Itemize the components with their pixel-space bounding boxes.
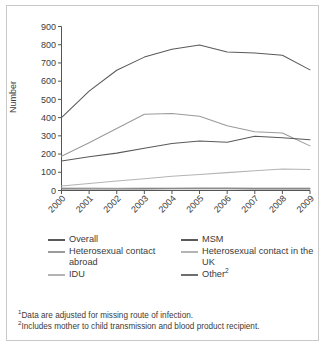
- legend-item-label: Heterosexual contact in the UK: [202, 246, 314, 268]
- x-axis-tick-label: 2001: [74, 193, 95, 214]
- y-axis-tick-label: 700: [41, 58, 56, 68]
- x-axis-tick-label: 2004: [157, 193, 178, 214]
- x-axis-tick-label: 2006: [212, 193, 233, 214]
- line-chart-svg: 0100200300400500600700800900200020012002…: [0, 0, 326, 232]
- series-line: [62, 114, 311, 157]
- y-axis-tick-label: 800: [41, 40, 56, 50]
- x-axis-tick-label: 2009: [295, 193, 316, 214]
- plot-area: Number 010020030040050060070080090020002…: [0, 0, 326, 232]
- y-axis-tick-label: 900: [41, 22, 56, 32]
- legend-item-overall[interactable]: Overall: [48, 234, 181, 245]
- legend-line-swatch: [181, 274, 198, 276]
- legend-item-label: Heterosexual contact abroad: [69, 246, 181, 268]
- series-line: [62, 45, 311, 118]
- legend-line-swatch: [181, 239, 198, 241]
- legend-item-msm[interactable]: MSM: [181, 234, 314, 245]
- legend-line-swatch: [181, 251, 198, 253]
- x-axis-tick-label: 2003: [129, 193, 150, 214]
- legend-line-swatch: [48, 251, 65, 253]
- y-axis-tick-label: 300: [41, 131, 56, 141]
- x-axis-tick-label: 2002: [101, 193, 122, 214]
- legend-item-label: Overall: [69, 234, 98, 245]
- x-axis-tick-label: 2000: [46, 193, 67, 214]
- footnote: 1Data are adjusted for missing route of …: [18, 310, 312, 321]
- footnote: 2Includes mother to child transmission a…: [18, 321, 312, 332]
- footnote-marker: 2: [18, 319, 21, 326]
- legend-item-idu[interactable]: IDU: [48, 269, 181, 280]
- legend-item-label: Other2: [202, 269, 229, 280]
- legend-item-heterosexual-contact-in-the-uk[interactable]: Heterosexual contact in the UK: [181, 246, 314, 268]
- legend-row: IDUOther2: [48, 269, 314, 280]
- x-axis-tick-label: 2008: [267, 193, 288, 214]
- series-line: [62, 136, 311, 161]
- x-axis-tick-label: 2007: [239, 193, 260, 214]
- legend-item-heterosexual-contact-abroad[interactable]: Heterosexual contact abroad: [48, 246, 181, 268]
- legend-footnote-marker: 2: [225, 267, 229, 274]
- legend-item-label: MSM: [202, 234, 223, 245]
- y-axis-tick-label: 500: [41, 95, 56, 105]
- y-axis-tick-label: 400: [41, 113, 56, 123]
- footnote-marker: 1: [18, 308, 21, 315]
- y-axis-tick-label: 100: [41, 167, 56, 177]
- figure-container: Number 010020030040050060070080090020002…: [0, 0, 326, 347]
- legend-item-other[interactable]: Other2: [181, 269, 314, 280]
- y-axis-tick-label: 200: [41, 149, 56, 159]
- legend-line-swatch: [48, 239, 65, 241]
- x-axis-tick-label: 2005: [184, 193, 205, 214]
- legend-row: OverallMSM: [48, 234, 314, 245]
- footnotes-block: 1Data are adjusted for missing route of …: [18, 310, 312, 332]
- legend-item-label: IDU: [69, 269, 85, 280]
- y-axis-tick-label: 600: [41, 76, 56, 86]
- chart-legend: OverallMSMHeterosexual contact abroadHet…: [48, 234, 314, 281]
- legend-row: Heterosexual contact abroadHeterosexual …: [48, 246, 314, 268]
- legend-line-swatch: [48, 274, 65, 276]
- series-line: [62, 169, 311, 186]
- y-axis-tick-label: 0: [51, 186, 56, 196]
